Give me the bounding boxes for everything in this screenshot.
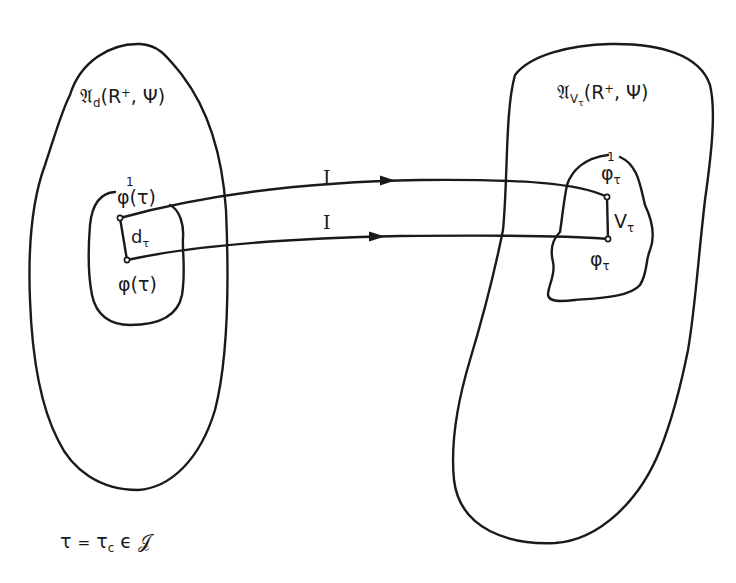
right-set-sub-v: V xyxy=(570,92,578,106)
right-set-sup: + xyxy=(604,82,614,96)
right-bottom-point-main: φ xyxy=(590,248,603,270)
left-segment-label: dτ xyxy=(131,228,149,249)
right-set-args-open: (R xyxy=(584,81,605,103)
right-set-sub: Vτ xyxy=(570,92,584,106)
right-set-args-close: , Ψ) xyxy=(614,81,648,103)
right-segment-sub: τ xyxy=(627,221,634,235)
caption: τ = τc ϵ 𝒥 xyxy=(60,532,151,555)
right-segment-label: Vτ xyxy=(614,212,634,235)
left-set-args-open: (R xyxy=(100,85,121,107)
right-set-symbol: 𝔄 xyxy=(557,81,570,103)
caption-set: 𝒥 xyxy=(138,530,151,552)
caption-lhs: τ xyxy=(60,530,71,552)
right-top-point-sub: τ xyxy=(614,173,621,187)
caption-member: ϵ xyxy=(120,530,132,552)
right-set-boundary xyxy=(453,44,713,543)
left-top-point-label: φ(τ) xyxy=(117,188,156,207)
left-set-sup: + xyxy=(121,86,131,100)
left-set-boundary xyxy=(30,44,228,490)
right-top-point xyxy=(604,194,609,199)
right-bottom-point-label: φτ xyxy=(590,250,610,273)
upper-arrowhead-icon xyxy=(380,176,395,186)
left-bottom-point-label: φ(τ) xyxy=(118,275,157,294)
upper-mapping-arrow xyxy=(120,180,607,218)
left-segment-sub: τ xyxy=(142,237,149,250)
right-segment-v-tau xyxy=(607,197,608,239)
left-set-label: 𝔄d(R+, Ψ) xyxy=(80,87,165,110)
caption-rhs: τ xyxy=(96,530,107,552)
right-top-point-label: φτ xyxy=(601,164,621,187)
right-set-label: 𝔄Vτ(R+, Ψ) xyxy=(557,83,648,107)
lower-arrowhead-icon xyxy=(369,232,385,242)
left-segment-d-tau xyxy=(120,218,127,260)
right-top-point-main: φ xyxy=(601,162,614,184)
caption-rhs-sub: c xyxy=(108,541,114,555)
lower-mapping-arrow xyxy=(127,236,608,260)
left-set-symbol: 𝔄 xyxy=(80,85,93,107)
caption-eq: = xyxy=(78,534,91,552)
lower-arrow-label: I xyxy=(323,213,331,232)
left-set-args-close: , Ψ) xyxy=(131,85,165,107)
right-segment-main: V xyxy=(614,210,627,232)
right-bottom-point xyxy=(605,236,610,241)
right-bottom-point-sub: τ xyxy=(603,259,610,273)
left-top-point xyxy=(117,215,122,220)
upper-arrow-label: I xyxy=(323,168,331,187)
left-bottom-point xyxy=(124,257,129,262)
left-segment-main: d xyxy=(131,226,142,247)
